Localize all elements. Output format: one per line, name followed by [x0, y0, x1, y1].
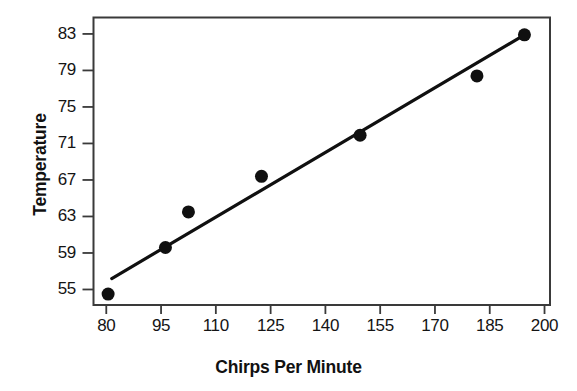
x-tick-label: 80: [97, 316, 115, 336]
x-axis-title: Chirps Per Minute: [0, 357, 577, 378]
x-tick-label: 200: [531, 316, 558, 336]
x-tick-label: 125: [257, 316, 284, 336]
y-axis-ticks: [83, 34, 94, 290]
x-tick-label: 155: [366, 316, 393, 336]
data-point: [159, 241, 172, 254]
trend-line: [112, 35, 525, 279]
data-point: [518, 28, 531, 41]
x-axis-ticks: [106, 305, 544, 314]
x-tick-label: 170: [421, 316, 448, 336]
data-point: [182, 205, 195, 218]
y-tick-label: 83: [30, 24, 76, 44]
data-point: [354, 129, 367, 142]
x-tick-label: 110: [203, 316, 229, 336]
x-tick-label: 185: [476, 316, 503, 336]
data-point: [470, 69, 483, 82]
y-tick-label: 55: [30, 279, 76, 299]
data-point: [255, 170, 268, 183]
x-tick-label: 95: [152, 316, 170, 336]
trend-line-segment: [112, 35, 525, 279]
y-axis-title: Temperature: [30, 55, 51, 275]
scatter-chart: 8095110125140155170185200 55596367717579…: [0, 0, 577, 391]
data-point: [102, 288, 115, 301]
x-tick-label: 140: [312, 316, 339, 336]
